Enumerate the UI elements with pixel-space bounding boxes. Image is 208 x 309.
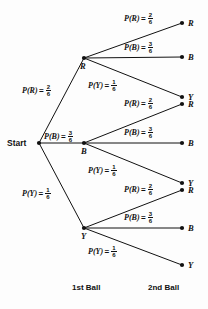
prob-label-red-to-yellow: P(Y) = 1 6: [88, 79, 117, 93]
prob-label-start-to-yellow: P(Y) = 1 6: [22, 187, 51, 201]
fraction-red: 2 6: [148, 97, 153, 111]
equals-sign: =: [141, 44, 146, 52]
fraction-yellow: 1 6: [111, 245, 116, 259]
node-first-blue: [82, 141, 86, 145]
tree-branches-svg: [0, 0, 208, 309]
fraction-blue: 3 6: [148, 41, 153, 55]
prob-function-text: P(Y): [22, 190, 37, 198]
node-label-first-red: R: [80, 62, 86, 71]
equals-sign: =: [141, 214, 146, 222]
branch-red-to-blue: [84, 57, 182, 58]
fraction-yellow: 1 6: [45, 187, 50, 201]
fraction-denominator: 6: [111, 85, 116, 92]
node-blue-blue: [180, 141, 184, 145]
node-label-first-blue: B: [81, 147, 87, 156]
equals-sign: =: [105, 248, 110, 256]
node-label-blue-blue: B: [188, 139, 194, 148]
equals-sign: =: [39, 190, 44, 198]
node-start: [37, 141, 41, 145]
prob-label-blue-to-yellow: P(Y) = 1 6: [88, 164, 117, 178]
node-label-first-yellow: Y: [81, 232, 86, 241]
node-label-yellow-red: R: [188, 186, 194, 195]
prob-label-yellow-to-blue: P(B) = 3 6: [124, 211, 153, 225]
probability-tree-diagram: Start P(R) = 2 6 P(B) = 3 6 P(Y) = 1 6 R…: [0, 0, 208, 309]
fraction-red: 2 6: [148, 12, 153, 26]
prob-label-blue-to-red: P(R) = 2 6: [124, 97, 153, 111]
fraction-denominator: 6: [46, 90, 51, 97]
fraction-denominator: 6: [68, 136, 73, 143]
equals-sign: =: [141, 129, 146, 137]
node-red-blue: [180, 55, 184, 59]
equals-sign: =: [105, 82, 110, 90]
fraction-denominator: 6: [111, 251, 116, 258]
fraction-yellow: 1 6: [111, 79, 116, 93]
fraction-denominator: 6: [45, 193, 50, 200]
fraction-yellow: 1 6: [111, 164, 116, 178]
fraction-denominator: 6: [148, 217, 153, 224]
node-first-yellow: [82, 226, 86, 230]
node-label-yellow-yellow: Y: [188, 261, 193, 270]
equals-sign: =: [39, 87, 44, 95]
fraction-blue: 3 6: [148, 211, 153, 225]
fraction-denominator: 6: [148, 132, 153, 139]
prob-function-text: P(B): [124, 214, 140, 222]
prob-function-text: P(R): [22, 87, 38, 95]
node-label-red-red: R: [188, 19, 194, 28]
prob-label-start-to-blue: P(B) = 3 6: [44, 130, 73, 144]
fraction-denominator: 6: [148, 47, 153, 54]
equals-sign: =: [141, 100, 146, 108]
fraction-red: 2 6: [46, 84, 51, 98]
prob-function-text: P(Y): [88, 167, 103, 175]
node-blue-yellow: [180, 181, 184, 185]
prob-function-text: P(R): [124, 15, 140, 23]
prob-label-blue-to-blue: P(B) = 3 6: [124, 126, 153, 140]
prob-label-red-to-red: P(R) = 2 6: [124, 12, 153, 26]
fraction-denominator: 6: [111, 170, 116, 177]
node-blue-red: [180, 102, 184, 106]
start-label: Start: [7, 139, 26, 148]
node-yellow-red: [180, 188, 184, 192]
prob-function-text: P(R): [124, 186, 140, 194]
node-label-blue-red: R: [188, 100, 194, 109]
node-first-red: [82, 56, 86, 60]
fraction-denominator: 6: [148, 18, 153, 25]
fraction-red: 2 6: [148, 183, 153, 197]
prob-label-red-to-blue: P(B) = 3 6: [124, 41, 153, 55]
prob-function-text: P(B): [124, 44, 140, 52]
prob-function-text: P(Y): [88, 248, 103, 256]
prob-label-yellow-to-red: P(R) = 2 6: [124, 183, 153, 197]
node-yellow-yellow: [180, 263, 184, 267]
prob-function-text: P(R): [124, 100, 140, 108]
equals-sign: =: [141, 15, 146, 23]
branch-start-to-yellow: [39, 143, 84, 228]
fraction-blue: 3 6: [148, 126, 153, 140]
node-red-red: [180, 21, 184, 25]
prob-function-text: P(B): [44, 133, 60, 141]
node-yellow-blue: [180, 226, 184, 230]
fraction-blue: 3 6: [68, 130, 73, 144]
prob-label-start-to-red: P(R) = 2 6: [22, 84, 51, 98]
prob-function-text: P(Y): [88, 82, 103, 90]
node-label-red-blue: B: [188, 53, 194, 62]
node-label-yellow-blue: B: [188, 224, 194, 233]
prob-function-text: P(B): [124, 129, 140, 137]
column-label-second-ball: 2nd Ball: [148, 284, 179, 292]
column-label-first-ball: 1st Ball: [72, 284, 100, 292]
equals-sign: =: [61, 133, 66, 141]
equals-sign: =: [141, 186, 146, 194]
equals-sign: =: [105, 167, 110, 175]
fraction-denominator: 6: [148, 103, 153, 110]
prob-label-yellow-to-yellow: P(Y) = 1 6: [88, 245, 117, 259]
node-red-yellow: [180, 95, 184, 99]
fraction-denominator: 6: [148, 189, 153, 196]
